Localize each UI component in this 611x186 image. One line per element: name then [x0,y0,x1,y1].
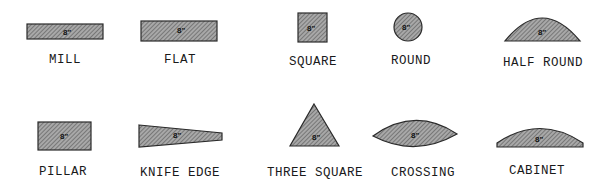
size-mark: 8" [535,135,543,144]
shape-cabinet: 8" CABINET [497,129,583,179]
shape-round: 8" ROUND [391,13,431,68]
label-half-round: HALF ROUND [503,56,583,70]
label-crossing: CROSSING [391,166,455,180]
label-three-square: THREE SQUARE [267,166,363,180]
label-mill: MILL [49,53,81,67]
shape-crossing: 8" CROSSING [373,120,457,180]
shape-half-round: 8" HALF ROUND [503,18,583,70]
label-square: SQUARE [289,55,337,69]
size-mark: 8" [307,24,315,33]
shape-three-square: 8" THREE SQUARE [267,104,363,180]
label-pillar: PILLAR [39,165,87,179]
label-round: ROUND [391,54,431,68]
shape-mill: 8" MILL [27,24,103,67]
shape-knife-edge: 8" KNIFE EDGE [139,125,222,180]
shape-pillar: 8" PILLAR [38,122,91,179]
label-knife-edge: KNIFE EDGE [140,166,220,180]
file-shapes-diagram: 8" MILL 8" FLAT 8" SQUARE 8" ROUND 8" HA… [0,0,611,186]
label-cabinet: CABINET [509,164,565,178]
size-mark: 8" [312,133,320,142]
size-mark: 8" [60,132,68,141]
size-mark: 8" [63,28,71,37]
label-flat: FLAT [164,53,196,67]
diagram-canvas: 8" MILL 8" FLAT 8" SQUARE 8" ROUND 8" HA… [0,0,611,186]
size-mark: 8" [411,131,419,140]
shape-square: 8" SQUARE [289,13,337,69]
size-mark: 8" [173,131,181,140]
size-mark: 8" [402,23,410,32]
size-mark: 8" [538,28,546,37]
size-mark: 8" [177,26,185,35]
shape-flat: 8" FLAT [141,21,217,67]
